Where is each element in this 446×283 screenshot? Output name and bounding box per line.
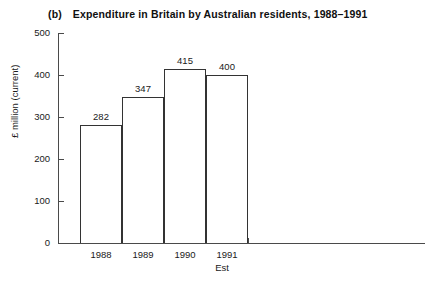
x-axis-tick-label: 1990 — [174, 249, 195, 260]
bar-value-label: 415 — [177, 55, 193, 66]
bar: 415 — [164, 69, 206, 243]
y-axis-line — [58, 33, 59, 244]
bar: 282 — [80, 125, 122, 243]
x-axis-title-text: Est — [215, 262, 229, 273]
x-axis-tick — [248, 238, 249, 244]
y-axis-tick-label: 400 — [34, 69, 50, 80]
bar-value-label: 400 — [219, 61, 235, 72]
x-axis-tick-label: 1991 — [216, 249, 237, 260]
y-axis-tick-label: 500 — [34, 27, 50, 38]
plot-area: 0100200300400500 282347415400 1988198919… — [58, 33, 425, 243]
bar-value-label: 347 — [135, 83, 151, 94]
y-axis-tick-label: 200 — [34, 153, 50, 164]
bar-chart-figure: (b)Expenditure in Britain by Australian … — [0, 0, 446, 283]
bar: 347 — [122, 97, 164, 243]
y-axis-title: £ million (current) — [9, 65, 20, 138]
x-axis-tick-label: 1989 — [132, 249, 153, 260]
bar-value-label: 282 — [93, 111, 109, 122]
y-axis-tick-label: 0 — [45, 237, 50, 248]
title-text: Expenditure in Britain by Australian res… — [73, 8, 368, 20]
y-axis-tick: 200 — [59, 159, 64, 160]
y-axis-tick: 0 — [59, 243, 64, 244]
x-axis-tick-label: 1988 — [90, 249, 111, 260]
panel-label: (b) — [48, 8, 62, 20]
y-axis-tick: 300 — [59, 117, 64, 118]
x-axis-line — [58, 243, 425, 244]
bar: 400 — [206, 75, 248, 243]
y-axis-tick: 100 — [59, 201, 64, 202]
y-axis-tick-label: 100 — [34, 195, 50, 206]
y-axis-tick: 400 — [59, 75, 64, 76]
y-axis-tick-label: 300 — [34, 111, 50, 122]
x-axis-title: Est — [0, 262, 446, 273]
figure-title: (b)Expenditure in Britain by Australian … — [48, 8, 368, 20]
y-axis-tick: 500 — [59, 33, 64, 34]
